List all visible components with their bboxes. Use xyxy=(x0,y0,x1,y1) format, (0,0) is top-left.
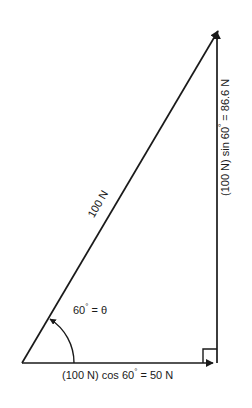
horizontal-label-suffix: = 50 N xyxy=(137,369,173,381)
horizontal-component-label: (100 N) cos 60° = 50 N xyxy=(62,370,173,381)
angle-value: 60 xyxy=(73,304,85,316)
angle-theta-text: = θ xyxy=(88,304,107,316)
vertical-component-label: (100 N) sin 60° = 86.6 N xyxy=(220,79,231,196)
vector-diagram-canvas xyxy=(0,0,252,408)
vector-diagram: 100 N 60° = θ (100 N) cos 60° = 50 N (10… xyxy=(0,0,252,408)
resultant-vector-line xyxy=(22,31,218,363)
angle-label: 60° = θ xyxy=(73,305,107,316)
vertical-label-prefix: (100 N) sin 60 xyxy=(219,127,231,196)
vertical-label-suffix: = 86.6 N xyxy=(219,79,231,124)
angle-arc xyxy=(50,319,74,363)
right-angle-marker xyxy=(203,349,217,363)
horizontal-label-prefix: (100 N) cos 60 xyxy=(62,369,134,381)
vertical-degree-symbol: ° xyxy=(217,124,226,127)
